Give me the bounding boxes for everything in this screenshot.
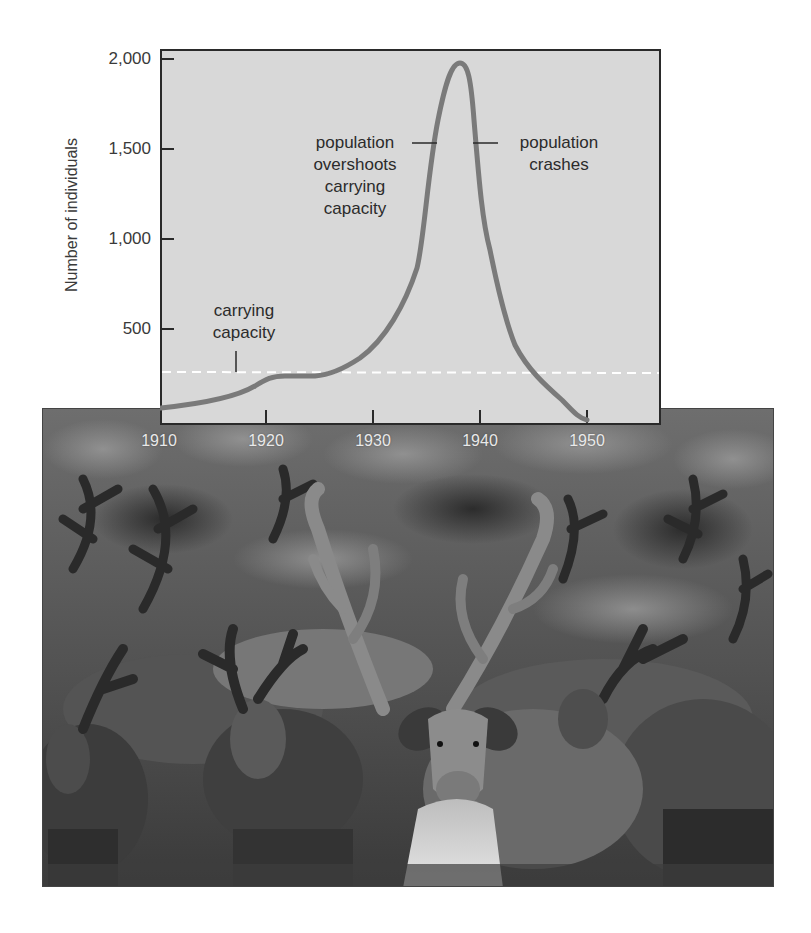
x-tick-label-1940: 1940 [462,432,498,450]
y-tick-label-1000: 1,000 [71,229,151,249]
population-chart: Number of individuals 2,000 1,500 1,000 … [0,0,811,470]
plot-svg [160,49,661,425]
y-axis-ticks [161,59,174,329]
annotation-crash: population crashes [504,132,614,176]
annotation-overshoot: population overshoots carrying capacity [300,132,410,220]
ground [43,864,774,887]
reindeer-herd-photo [42,408,774,887]
x-tick-label-1910: 1910 [141,432,177,450]
x-tick-label-1950: 1950 [569,432,605,450]
x-axis-ticks [266,410,587,424]
y-tick-label-500: 500 [71,319,151,339]
reindeer-photo-illustration [43,409,774,887]
annotation-carrying-capacity: carrying capacity [194,300,294,344]
x-tick-label-1920: 1920 [248,432,284,450]
x-tick-label-1930: 1930 [355,432,391,450]
population-curve [161,63,587,420]
y-axis-title: Number of individuals [63,138,81,292]
plot-area [160,49,661,425]
carrying-capacity-line [162,372,659,373]
y-tick-label-2000: 2,000 [71,49,151,69]
y-tick-label-1500: 1,500 [71,139,151,159]
